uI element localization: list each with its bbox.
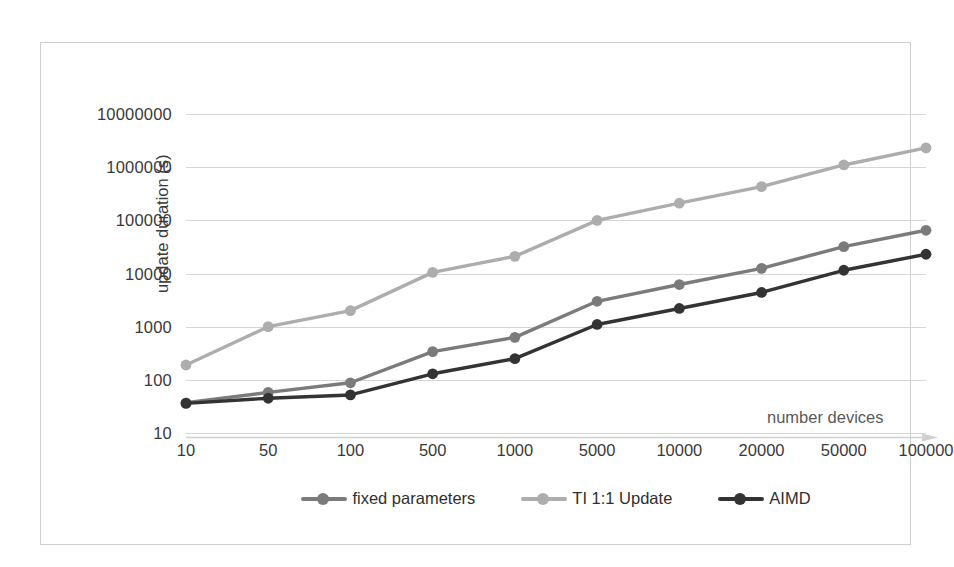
x-axis-tick-label: 20000: [739, 441, 785, 460]
legend-item[interactable]: fixed parameters: [301, 489, 475, 508]
legend-item[interactable]: AIMD: [718, 489, 810, 508]
series-line: [186, 254, 926, 403]
y-axis-tick-label: 100000: [116, 211, 172, 230]
data-point: [838, 241, 849, 252]
data-point: [427, 368, 438, 379]
data-point: [181, 360, 192, 371]
x-axis-tick-label: 50000: [821, 441, 867, 460]
data-point: [674, 303, 685, 314]
data-point: [592, 215, 603, 226]
x-axis-arrow-icon: [186, 433, 938, 442]
series-line: [186, 148, 926, 365]
data-point: [181, 398, 192, 409]
chart-legend: fixed parametersTI 1:1 UpdateAIMD: [186, 483, 926, 513]
y-axis-tick-label: 10: [153, 424, 172, 443]
series-ti-1-1-update: [181, 143, 932, 371]
data-point: [592, 296, 603, 307]
data-point: [263, 393, 274, 404]
data-point: [756, 287, 767, 298]
data-point: [756, 181, 767, 192]
y-axis-tick-label: 1000000: [106, 158, 172, 177]
data-point: [345, 305, 356, 316]
x-axis-tick-label: 10000: [656, 441, 702, 460]
data-point: [345, 390, 356, 401]
data-point: [838, 265, 849, 276]
data-point: [921, 143, 932, 154]
x-axis-tick-label: 50: [259, 441, 277, 460]
data-point: [674, 198, 685, 209]
legend-label: TI 1:1 Update: [572, 489, 672, 508]
series-line: [186, 230, 926, 403]
x-axis-title: number devices: [767, 408, 883, 427]
legend-marker-icon: [718, 491, 764, 505]
data-point: [345, 377, 356, 388]
x-axis-tick-label: 1000: [497, 441, 534, 460]
data-point: [838, 160, 849, 171]
x-axis-tick-label: 10: [177, 441, 195, 460]
plot-area: 10000000100000010000010000100010010: [186, 114, 926, 433]
y-axis-tick-label: 10000: [125, 264, 172, 283]
legend-marker-icon: [301, 491, 347, 505]
data-point: [263, 321, 274, 332]
legend-marker-icon: [521, 491, 567, 505]
data-point: [509, 251, 520, 262]
data-point: [427, 267, 438, 278]
data-point: [921, 225, 932, 236]
x-axis-tick-label: 100: [337, 441, 365, 460]
y-axis-tick-label: 1000: [134, 317, 172, 336]
data-point: [756, 263, 767, 274]
series-plot: [186, 114, 926, 433]
x-axis-tick-labels: 105010050010005000100002000050000100000: [186, 441, 926, 469]
legend-item[interactable]: TI 1:1 Update: [521, 489, 672, 508]
x-axis-tick-label: 100000: [898, 441, 953, 460]
y-axis-tick-label: 100: [144, 370, 172, 389]
data-point: [509, 353, 520, 364]
data-point: [921, 249, 932, 260]
data-point: [592, 319, 603, 330]
chart-frame: update duration (s) 10000000100000010000…: [40, 42, 911, 545]
x-axis-tick-label: 500: [419, 441, 447, 460]
series-aimd: [181, 249, 932, 409]
x-axis-tick-label: 5000: [579, 441, 616, 460]
data-point: [674, 279, 685, 290]
data-point: [427, 346, 438, 357]
legend-label: fixed parameters: [352, 489, 475, 508]
data-point: [509, 332, 520, 343]
legend-label: AIMD: [769, 489, 810, 508]
series-fixed-parameters: [181, 225, 932, 408]
y-axis-tick-label: 10000000: [97, 105, 172, 124]
